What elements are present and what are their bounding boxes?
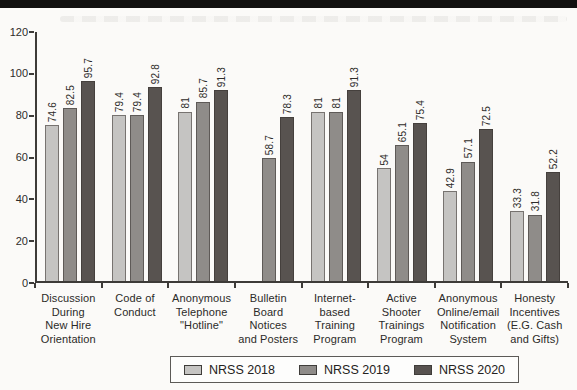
bar-value-label: 81	[312, 97, 323, 109]
y-tick-mark	[29, 240, 34, 242]
legend-label: NRSS 2019	[324, 363, 390, 377]
bar-group: 79.479.492.8	[103, 32, 169, 281]
legend-label: NRSS 2020	[439, 363, 505, 377]
bar-slot: 81	[178, 112, 192, 281]
x-tick-mark	[434, 283, 436, 288]
bar-value-label: 91.3	[348, 67, 359, 87]
bar-value-label: 81	[179, 97, 190, 109]
bar	[81, 81, 95, 281]
bar	[311, 112, 325, 281]
x-tick-mark	[167, 283, 169, 288]
bar-value-label: 92.8	[149, 64, 160, 84]
bar	[329, 112, 343, 281]
bar-value-label: 52.2	[547, 149, 558, 169]
bar	[63, 108, 77, 281]
bar-value-label: 42.9	[445, 168, 456, 188]
bar-slot: 91.3	[214, 90, 228, 281]
y-tick-label: 80	[0, 109, 28, 121]
bar-slot: 81	[311, 112, 325, 281]
bar-group: 74.682.595.7	[37, 32, 103, 281]
bar	[45, 125, 59, 281]
bar-value-label: 78.3	[282, 94, 293, 114]
x-tick-mark	[567, 283, 569, 288]
bar	[280, 117, 294, 281]
bar-value-label: 82.5	[65, 85, 76, 105]
bar-slot: 57.1	[461, 162, 475, 281]
bar-slot: 65.1	[395, 145, 409, 281]
bar-value-label: 91.3	[215, 67, 226, 87]
bar-slot: 81	[329, 112, 343, 281]
bar-slot: 42.9	[443, 191, 457, 281]
bar-slot: 52.2	[546, 172, 560, 281]
bar-slot: 85.7	[196, 102, 210, 281]
y-tick-label: 0	[0, 277, 28, 289]
bar-value-label: 65.1	[397, 122, 408, 142]
bar	[413, 123, 427, 281]
bar	[546, 172, 560, 281]
x-tick-mark	[367, 283, 369, 288]
x-tick-mark	[34, 283, 36, 288]
bar-slot: 78.3	[280, 117, 294, 281]
bar-slot: 33.3	[510, 211, 524, 281]
y-tick-label: 40	[0, 193, 28, 205]
bar	[461, 162, 475, 281]
category-label: DiscussionDuringNew HireOrientation	[35, 292, 102, 346]
y-tick-label: 20	[0, 235, 28, 247]
legend-swatch	[414, 365, 432, 375]
legend-label: NRSS 2018	[209, 363, 275, 377]
bar	[196, 102, 210, 281]
chart-legend: NRSS 2018NRSS 2019NRSS 2020	[170, 356, 519, 383]
bar-group: 42.957.172.5	[435, 32, 501, 281]
bar-value-label: 31.8	[529, 191, 540, 211]
x-tick-mark	[301, 283, 303, 288]
bar	[510, 211, 524, 281]
bar	[178, 112, 192, 281]
y-tick-label: 120	[0, 26, 28, 38]
y-tick-mark	[29, 31, 34, 33]
bar	[130, 115, 144, 281]
top-border-bar	[0, 0, 577, 8]
bar-value-label: 33.3	[511, 188, 522, 208]
bar-value-label: 74.6	[47, 102, 58, 122]
bar-slot: 74.6	[45, 125, 59, 281]
bar-value-label: 57.1	[463, 138, 474, 158]
bar	[112, 115, 126, 281]
bar-slot: 31.8	[528, 215, 542, 282]
bar-value-label: 79.4	[131, 92, 142, 112]
y-tick-mark	[29, 157, 34, 159]
bar-slot: 91.3	[347, 90, 361, 281]
category-label: AnonymousTelephone"Hotline"	[168, 292, 235, 346]
bar	[528, 215, 542, 282]
bar-value-label: 85.7	[197, 78, 208, 98]
bar-slot: 79.4	[130, 115, 144, 281]
bar-value-label: 58.7	[264, 135, 275, 155]
y-tick-mark	[29, 73, 34, 75]
bar-slot: 82.5	[63, 108, 77, 281]
category-label: HonestyIncentives(E.G. Cashand Gifts)	[501, 292, 568, 346]
legend-entry: NRSS 2019	[299, 363, 390, 377]
bar-slot: 72.5	[479, 129, 493, 281]
bar-value-label: 81	[330, 97, 341, 109]
y-tick-label: 60	[0, 151, 28, 163]
x-tick-mark	[234, 283, 236, 288]
bar-slot: 79.4	[112, 115, 126, 281]
bar-value-label: 54	[379, 154, 390, 166]
bar	[479, 129, 493, 281]
bar	[347, 90, 361, 281]
bar-value-label: 75.4	[415, 100, 426, 120]
bar	[214, 90, 228, 281]
bar-group: 5465.175.4	[369, 32, 435, 281]
bar-group: 818191.3	[303, 32, 369, 281]
category-label: BulletinBoardNoticesand Posters	[235, 292, 302, 346]
bar	[262, 158, 276, 281]
bar	[395, 145, 409, 281]
category-label: ActiveShooterTrainingsProgram	[368, 292, 435, 346]
y-tick-label: 100	[0, 67, 28, 79]
bar-value-label: 72.5	[481, 106, 492, 126]
y-tick-mark	[29, 115, 34, 117]
x-tick-mark	[101, 283, 103, 288]
category-label: Internet-basedTrainingProgram	[302, 292, 369, 346]
bar	[148, 87, 162, 281]
legend-swatch	[299, 365, 317, 375]
bar-value-label: 79.4	[113, 92, 124, 112]
